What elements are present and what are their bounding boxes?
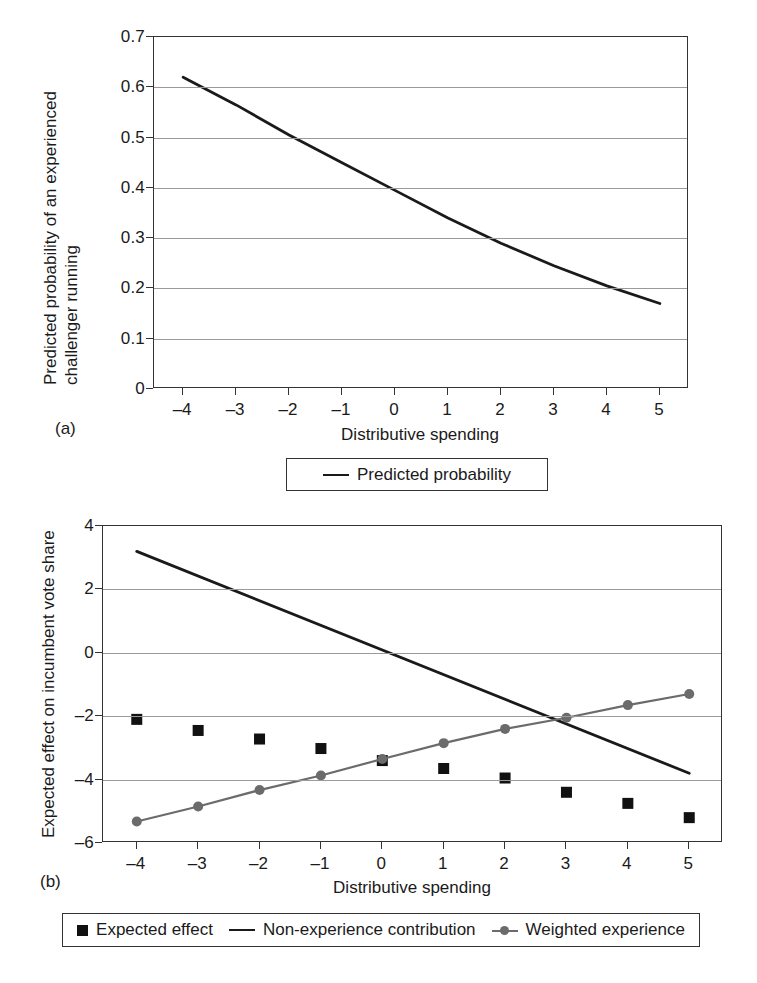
y-axis-tick-label: 0	[56, 644, 94, 661]
data-point-marker	[439, 738, 449, 748]
legend-line-icon	[229, 929, 255, 931]
series-weighted-experience	[132, 689, 694, 826]
x-axis-tick-mark	[136, 842, 137, 849]
x-axis-tick-label: –4	[126, 855, 145, 872]
gridline	[103, 653, 721, 654]
figure-panel-b: Expected effect on incumbent vote share …	[0, 0, 757, 983]
x-axis-tick-label: 0	[377, 855, 386, 872]
x-axis-tick-label: 1	[438, 855, 447, 872]
x-axis-tick-mark	[443, 842, 444, 849]
data-point-marker	[255, 785, 265, 795]
legend-square-icon	[77, 925, 88, 936]
gridline	[103, 780, 721, 781]
data-point-marker	[561, 787, 572, 798]
legend-entry: Expected effect	[77, 920, 213, 940]
y-axis-tick-label: –6	[56, 834, 94, 851]
x-axis-tick-mark	[627, 842, 628, 849]
series-expected-effect	[131, 714, 694, 823]
x-axis-tick-label: –1	[310, 855, 329, 872]
data-point-marker	[561, 713, 571, 723]
x-axis-tick-mark	[381, 842, 382, 849]
x-axis-tick-label: 2	[499, 855, 508, 872]
data-point-marker	[438, 763, 449, 774]
panel-b-x-axis-title: Distributive spending	[333, 878, 491, 898]
data-point-marker	[254, 734, 265, 745]
data-point-marker	[500, 724, 510, 734]
gridline	[103, 716, 721, 717]
y-axis-tick-mark	[95, 588, 102, 589]
x-axis-tick-mark	[688, 842, 689, 849]
x-axis-tick-mark	[259, 842, 260, 849]
panel-b-y-axis-title-text: Expected effect on incumbent vote share	[38, 530, 59, 838]
legend-entry: Weighted experience	[492, 920, 685, 940]
panel-b-series-layer	[103, 526, 723, 843]
y-axis-tick-label: 4	[56, 517, 94, 534]
x-axis-tick-mark	[197, 842, 198, 849]
data-point-marker	[132, 816, 142, 826]
y-axis-tick-mark	[95, 715, 102, 716]
legend-entry-label: Non-experience contribution	[263, 920, 476, 940]
legend-entry-label: Weighted experience	[526, 920, 685, 940]
data-point-marker	[193, 725, 204, 736]
series-non-experience-contribution	[137, 551, 689, 773]
legend-marker-line-icon	[492, 925, 518, 936]
x-axis-tick-label: 3	[561, 855, 570, 872]
panel-b-legend: Expected effectNon-experience contributi…	[62, 913, 700, 947]
data-point-marker	[315, 743, 326, 754]
y-axis-tick-label: 2	[56, 580, 94, 597]
y-axis-tick-mark	[95, 525, 102, 526]
y-axis-tick-mark	[95, 842, 102, 843]
y-axis-tick-mark	[95, 779, 102, 780]
legend-entry-label: Expected effect	[96, 920, 213, 940]
data-point-marker	[622, 798, 633, 809]
data-point-marker	[684, 689, 694, 699]
data-point-marker	[684, 812, 695, 823]
x-axis-tick-mark	[565, 842, 566, 849]
gridline	[103, 589, 721, 590]
x-axis-tick-mark	[320, 842, 321, 849]
panel-b-y-axis-title: Expected effect on incumbent vote share	[38, 530, 59, 838]
x-axis-tick-label: 5	[684, 855, 693, 872]
data-point-marker	[377, 754, 387, 764]
series-line	[137, 694, 689, 821]
panel-b-label: (b)	[40, 872, 61, 892]
data-point-marker	[500, 773, 511, 784]
y-axis-tick-label: –4	[56, 771, 94, 788]
legend-entry: Non-experience contribution	[229, 920, 476, 940]
x-axis-tick-label: 4	[622, 855, 631, 872]
y-axis-tick-label: –2	[56, 707, 94, 724]
data-point-marker	[623, 700, 633, 710]
x-axis-tick-label: –3	[188, 855, 207, 872]
y-axis-tick-mark	[95, 652, 102, 653]
panel-b-plot-area	[102, 525, 722, 842]
data-point-marker	[193, 802, 203, 812]
series-line	[137, 551, 689, 773]
x-axis-tick-mark	[504, 842, 505, 849]
x-axis-tick-label: –2	[249, 855, 268, 872]
